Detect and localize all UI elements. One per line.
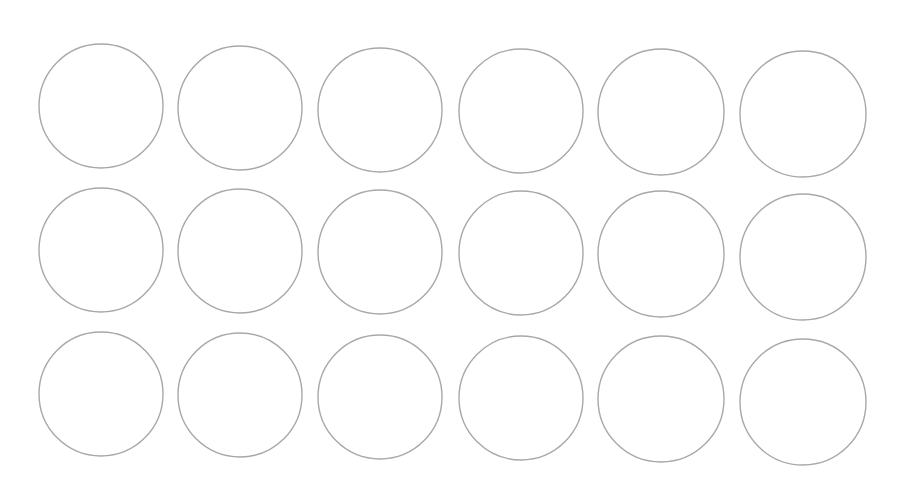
circle-outline <box>318 48 442 172</box>
circle-outline <box>740 51 866 177</box>
circle-outline <box>459 191 583 315</box>
circle-outline <box>598 336 724 462</box>
circle-outline <box>178 46 302 170</box>
circle-outline <box>598 191 724 317</box>
circle-outline <box>318 335 442 459</box>
circle-outline <box>598 49 724 175</box>
circle-outline <box>39 332 163 456</box>
circle-outline <box>459 49 583 173</box>
circle-outline <box>178 333 302 457</box>
circle-outline <box>178 189 302 313</box>
circle-outline <box>459 336 583 460</box>
circle-outline <box>740 194 866 320</box>
circle-outline <box>39 44 163 168</box>
circle-outline <box>318 190 442 314</box>
circle-outline <box>39 188 163 312</box>
circle-grid <box>0 0 899 486</box>
circle-outline <box>740 339 866 465</box>
